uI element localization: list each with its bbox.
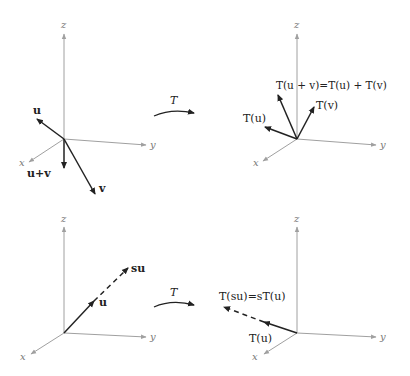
y-axis-label: y (150, 332, 156, 342)
vector-u-plus-v-label: u+v (27, 168, 51, 179)
x-axis-label: x (20, 352, 26, 362)
vector-su-label: su (131, 263, 145, 274)
vector-u-label: u (33, 105, 41, 116)
y-axis-label: y (150, 140, 156, 150)
vector-Tu-label: T(u) (243, 113, 266, 124)
vector-Tsu-label: T(su)=sT(u) (219, 291, 286, 302)
map-label-bottom: T (170, 287, 177, 298)
x-axis-label: x (253, 158, 259, 168)
vector-Tsu (224, 307, 264, 322)
y-axis (64, 139, 146, 145)
panel-additivity-codomain (263, 34, 376, 161)
vector-u-label: u (99, 297, 107, 308)
x-axis (263, 139, 297, 161)
diagram-svg (0, 0, 410, 376)
y-axis-label: y (380, 332, 386, 342)
vector-Tu-plus-v-label: T(u + v)=T(u) + T(v) (276, 80, 387, 91)
panel-homogeneity-domain (31, 227, 146, 354)
vector-Tv-label: T(v) (316, 100, 338, 111)
vector-v (64, 139, 95, 194)
vector-u (37, 119, 64, 139)
linear-transformation-diagram: z y x u u+v v T z y x T(u) T(u + v)=T(u)… (0, 0, 410, 376)
x-axis (31, 333, 64, 354)
map-arrow-top (154, 111, 194, 116)
vector-u (64, 301, 94, 333)
x-axis-label: x (252, 352, 258, 362)
map-arrow-bottom (154, 302, 194, 307)
z-axis-label: z (61, 214, 66, 224)
y-axis (297, 139, 376, 145)
z-axis-label: z (294, 20, 299, 30)
z-axis-label: z (61, 20, 66, 30)
map-label-top: T (170, 95, 177, 106)
y-axis (297, 333, 376, 337)
x-axis (29, 139, 64, 162)
vector-Tv (297, 107, 314, 139)
vector-v-label: v (99, 183, 105, 194)
y-axis (64, 333, 146, 337)
z-axis-label: z (294, 214, 299, 224)
y-axis-label: y (380, 140, 386, 150)
vector-Tu-label: T(u) (249, 333, 272, 344)
x-axis-label: x (19, 158, 25, 168)
